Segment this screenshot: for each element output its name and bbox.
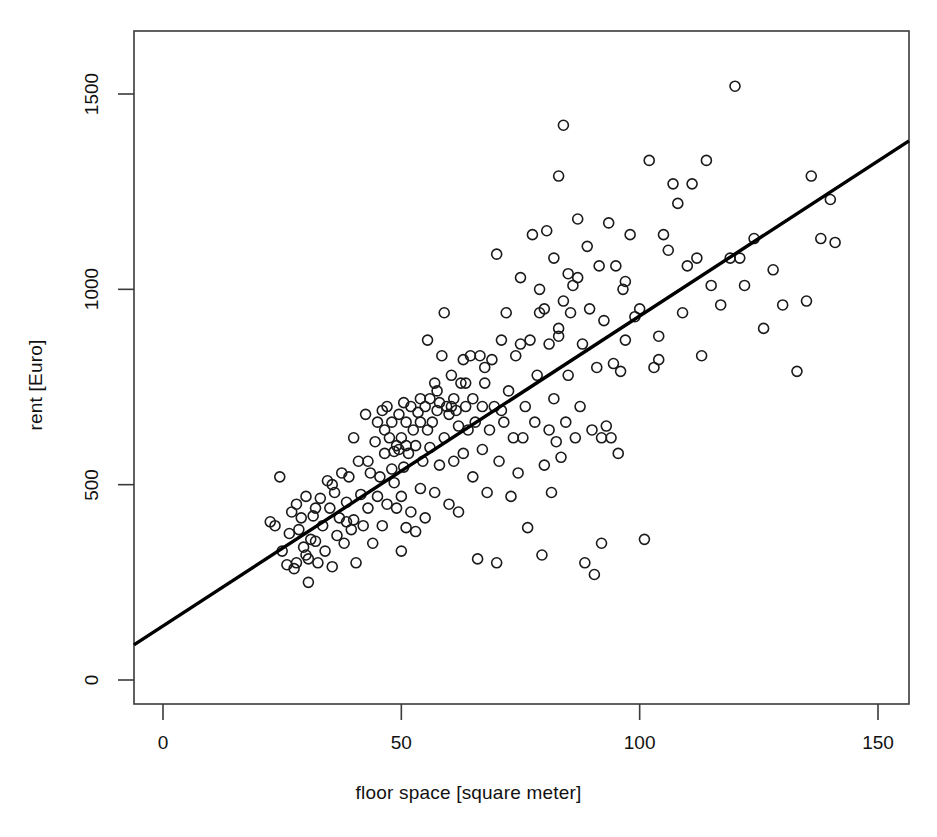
scatter-point bbox=[558, 120, 568, 130]
scatter-point bbox=[594, 261, 604, 271]
scatter-point bbox=[396, 491, 406, 501]
scatter-point bbox=[387, 464, 397, 474]
scatter-point bbox=[423, 335, 433, 345]
scatter-point bbox=[349, 433, 359, 443]
scatter-point bbox=[482, 487, 492, 497]
scatter-point bbox=[613, 448, 623, 458]
scatter-point bbox=[506, 491, 516, 501]
scatter-point bbox=[325, 503, 335, 513]
scatter-point bbox=[373, 491, 383, 501]
scatter-point bbox=[759, 323, 769, 333]
scatter-point bbox=[458, 448, 468, 458]
scatter-point bbox=[585, 304, 595, 314]
scatter-point bbox=[284, 529, 294, 539]
scatter-point bbox=[597, 433, 607, 443]
scatter-point bbox=[449, 456, 459, 466]
scatter-point bbox=[792, 366, 802, 376]
scatter-point bbox=[611, 261, 621, 271]
scatter-point bbox=[499, 417, 509, 427]
scatter-point bbox=[361, 409, 371, 419]
scatter-point bbox=[527, 230, 537, 240]
scatter-point bbox=[620, 335, 630, 345]
y-tick-label: 1000 bbox=[81, 268, 103, 310]
scatter-point bbox=[587, 425, 597, 435]
x-tick-label: 100 bbox=[624, 732, 656, 754]
scatter-point bbox=[437, 351, 447, 361]
scatter-point bbox=[516, 273, 526, 283]
scatter-point bbox=[477, 402, 487, 412]
scatter-point bbox=[654, 355, 664, 365]
scatter-point bbox=[639, 534, 649, 544]
scatter-point bbox=[480, 378, 490, 388]
scatter-point bbox=[516, 339, 526, 349]
regression-line bbox=[134, 141, 909, 645]
scatter-point bbox=[563, 269, 573, 279]
scatter-point bbox=[659, 230, 669, 240]
scatter-point bbox=[492, 558, 502, 568]
scatter-point bbox=[513, 468, 523, 478]
scatter-point bbox=[523, 523, 533, 533]
scatter-point bbox=[494, 456, 504, 466]
scatter-point bbox=[353, 456, 363, 466]
scatter-point bbox=[480, 362, 490, 372]
x-tick-label: 150 bbox=[862, 732, 894, 754]
scatter-point bbox=[358, 521, 368, 531]
scatter-point bbox=[580, 558, 590, 568]
scatter-point bbox=[518, 433, 528, 443]
scatter-point bbox=[551, 437, 561, 447]
scatter-point bbox=[830, 237, 840, 247]
scatter-point bbox=[315, 493, 325, 503]
scatter-point bbox=[544, 425, 554, 435]
plot-canvas bbox=[0, 0, 937, 837]
scatter-point bbox=[668, 179, 678, 189]
scatter-point bbox=[687, 179, 697, 189]
scatter-point bbox=[556, 452, 566, 462]
scatter-point bbox=[444, 499, 454, 509]
scatter-point bbox=[370, 437, 380, 447]
scatter-point bbox=[320, 546, 330, 556]
scatter-point bbox=[351, 558, 361, 568]
scatter-plot-figure: 050100150 050010001500 floor space [squa… bbox=[0, 0, 937, 837]
scatter-point bbox=[575, 402, 585, 412]
scatter-point bbox=[363, 503, 373, 513]
scatter-point bbox=[291, 499, 301, 509]
scatter-point bbox=[303, 577, 313, 587]
scatter-point bbox=[477, 445, 487, 455]
scatter-point bbox=[816, 234, 826, 244]
regression-line-segment bbox=[134, 141, 909, 645]
scatter-point bbox=[589, 570, 599, 580]
scatter-point bbox=[542, 226, 552, 236]
scatter-point bbox=[673, 198, 683, 208]
scatter-point bbox=[504, 386, 514, 396]
scatter-point bbox=[368, 538, 378, 548]
scatter-point bbox=[563, 370, 573, 380]
scatter-point bbox=[501, 308, 511, 318]
scatter-points bbox=[265, 81, 840, 587]
scatter-point bbox=[706, 280, 716, 290]
scatter-point bbox=[566, 308, 576, 318]
scatter-point bbox=[802, 296, 812, 306]
scatter-point bbox=[778, 300, 788, 310]
scatter-point bbox=[535, 284, 545, 294]
scatter-point bbox=[473, 554, 483, 564]
scatter-point bbox=[701, 155, 711, 165]
scatter-point bbox=[692, 253, 702, 263]
scatter-point bbox=[380, 425, 390, 435]
scatter-point bbox=[549, 394, 559, 404]
scatter-point bbox=[740, 280, 750, 290]
scatter-point bbox=[592, 362, 602, 372]
scatter-point bbox=[382, 499, 392, 509]
scatter-point bbox=[525, 335, 535, 345]
scatter-point bbox=[716, 300, 726, 310]
scatter-point bbox=[573, 214, 583, 224]
x-axis-ticks bbox=[163, 704, 878, 720]
scatter-point bbox=[678, 308, 688, 318]
scatter-point bbox=[573, 273, 583, 283]
scatter-point bbox=[430, 487, 440, 497]
scatter-point bbox=[301, 491, 311, 501]
scatter-point bbox=[511, 351, 521, 361]
scatter-point bbox=[546, 487, 556, 497]
scatter-point bbox=[570, 433, 580, 443]
scatter-point bbox=[392, 503, 402, 513]
scatter-point bbox=[806, 171, 816, 181]
